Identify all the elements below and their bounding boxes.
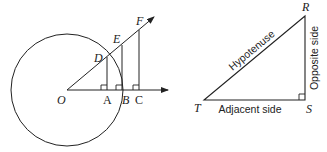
right-angle-mark-A bbox=[101, 85, 107, 90]
label-D: D bbox=[93, 51, 103, 65]
label-E: E bbox=[112, 32, 121, 46]
triangle-RST bbox=[204, 16, 305, 100]
label-R: R bbox=[301, 0, 310, 14]
label-O: O bbox=[57, 93, 66, 107]
label-B: B bbox=[122, 93, 130, 107]
label-C: C bbox=[135, 93, 143, 107]
label-F: F bbox=[135, 14, 144, 28]
label-T: T bbox=[194, 101, 202, 115]
adjacent-side-label: Adjacent side bbox=[218, 103, 281, 115]
label-A: A bbox=[103, 93, 112, 107]
diagram-canvas: O A B C D E F R T S Hypotenuse Opposite … bbox=[0, 0, 327, 152]
right-triangle-figure: R T S Hypotenuse Opposite side Adjacent … bbox=[194, 0, 320, 116]
right-angle-mark-S bbox=[299, 94, 305, 100]
label-S: S bbox=[306, 102, 312, 116]
right-angle-mark-C bbox=[133, 85, 139, 90]
unit-circle-figure: O A B C D E F bbox=[11, 14, 168, 146]
hypotenuse-label: Hypotenuse bbox=[226, 27, 277, 72]
right-angle-mark-B bbox=[116, 85, 122, 90]
opposite-side-label: Opposite side bbox=[308, 26, 320, 90]
